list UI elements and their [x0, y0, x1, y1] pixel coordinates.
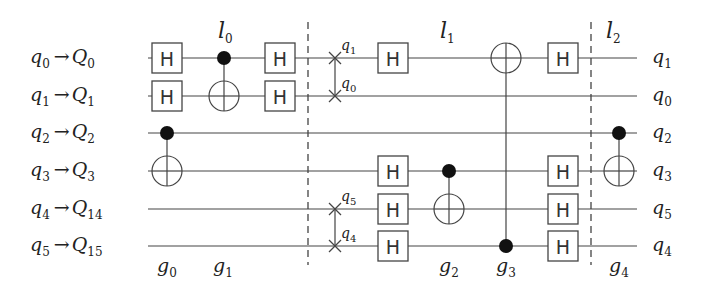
swap-label: q1 [341, 38, 356, 56]
physical-qubit: Q14 [72, 196, 103, 218]
gate-label-g3: g3 [496, 256, 516, 279]
physical-qubit: Q15 [72, 233, 103, 255]
input-mapping-5: q5→Q15 [30, 235, 103, 258]
svg-text:H: H [160, 86, 174, 108]
svg-text:H: H [386, 48, 400, 70]
swap-label: q4 [341, 226, 356, 244]
svg-text:H: H [556, 48, 570, 70]
g0-target [152, 156, 182, 186]
swap-label: q5 [341, 189, 356, 207]
g2-target [434, 194, 464, 224]
hadamard-gates: H H H H H H H H H H H H [152, 43, 578, 261]
gate-label-g1: g1 [213, 256, 233, 279]
physical-qubit: Q1 [72, 83, 95, 105]
layer-label-l0: l0 [218, 20, 233, 45]
input-mapping-0: q0→Q0 [30, 47, 95, 70]
physical-qubit: Q3 [72, 158, 95, 180]
logical-qubit: q2 [30, 120, 50, 142]
h-gate: H [378, 156, 408, 186]
svg-text:H: H [556, 236, 570, 258]
output-label-5: q4 [652, 235, 672, 258]
h-gate: H [265, 43, 295, 73]
svg-text:H: H [273, 48, 287, 70]
layer-label-l1: l1 [440, 20, 455, 45]
h-gate: H [548, 194, 578, 224]
arrow-icon: → [54, 83, 70, 105]
h-gate: H [378, 231, 408, 261]
g3-control-dot [499, 239, 513, 253]
h-gate: H [152, 43, 182, 73]
svg-text:H: H [273, 86, 287, 108]
svg-text:H: H [556, 199, 570, 221]
output-label-4: q5 [652, 198, 672, 221]
g1-control-dot [217, 51, 231, 65]
input-mapping-3: q3→Q3 [30, 160, 95, 183]
g0-control-dot [160, 126, 174, 140]
h-gate: H [548, 156, 578, 186]
g4-control-dot [612, 126, 626, 140]
output-label-3: q3 [652, 160, 672, 183]
logical-qubit: q0 [30, 45, 50, 67]
output-label-0: q1 [652, 47, 672, 70]
logical-qubit: q1 [30, 83, 50, 105]
output-label-1: q0 [652, 85, 672, 108]
svg-text:H: H [556, 161, 570, 183]
physical-qubit: Q0 [72, 45, 95, 67]
svg-text:H: H [386, 161, 400, 183]
g4-target [604, 156, 634, 186]
logical-qubit: q5 [30, 233, 50, 255]
g1-target [209, 81, 239, 111]
h-gate: H [265, 81, 295, 111]
svg-text:H: H [160, 48, 174, 70]
g2-control-dot [442, 164, 456, 178]
h-gate: H [548, 231, 578, 261]
arrow-icon: → [54, 120, 70, 142]
h-gate: H [378, 194, 408, 224]
h-gate: H [378, 43, 408, 73]
layer-label-l2: l2 [606, 20, 621, 45]
svg-text:H: H [386, 199, 400, 221]
input-mapping-1: q1→Q1 [30, 85, 95, 108]
arrow-icon: → [54, 233, 70, 255]
input-mapping-2: q2→Q2 [30, 122, 95, 145]
gate-label-g4: g4 [609, 256, 629, 279]
input-mapping-4: q4→Q14 [30, 198, 103, 221]
arrow-icon: → [54, 196, 70, 218]
arrow-icon: → [54, 158, 70, 180]
gate-label-g2: g2 [439, 256, 459, 279]
logical-qubit: q3 [30, 158, 50, 180]
gate-label-g0: g0 [157, 256, 177, 279]
arrow-icon: → [54, 45, 70, 67]
h-gate: H [548, 43, 578, 73]
physical-qubit: Q2 [72, 120, 95, 142]
h-gate: H [152, 81, 182, 111]
svg-text:H: H [386, 236, 400, 258]
output-label-2: q2 [652, 122, 672, 145]
logical-qubit: q4 [30, 196, 50, 218]
swap-label: q0 [341, 76, 356, 94]
g3-target [491, 43, 521, 73]
